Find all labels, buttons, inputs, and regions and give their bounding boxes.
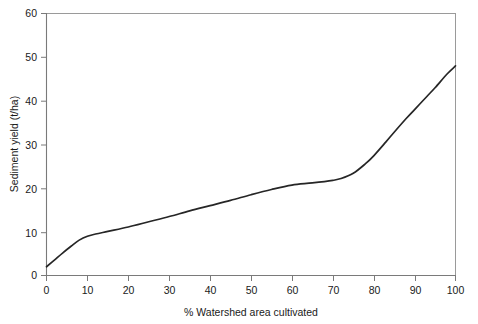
y-tick-label-40: 40 — [25, 95, 37, 107]
x-tick-label-60: 60 — [287, 284, 299, 296]
y-tick-label-60: 60 — [25, 7, 37, 19]
x-tick-label-40: 40 — [205, 284, 217, 296]
y-tick-labels: 60 50 40 30 20 10 0 — [25, 7, 37, 281]
y-tick-label-50: 50 — [25, 51, 37, 63]
sediment-yield-line-chart: 60 50 40 30 20 10 0 0 10 20 30 40 50 60 … — [0, 0, 478, 324]
x-tick-label-70: 70 — [328, 284, 340, 296]
y-axis-ticks — [41, 14, 46, 276]
y-axis-title: Sediment yield (t/ha) — [8, 96, 20, 192]
y-tick-label-10: 10 — [25, 227, 37, 239]
plot-area-background — [46, 13, 456, 276]
y-tick-label-20: 20 — [25, 183, 37, 195]
x-axis-ticks — [47, 276, 456, 281]
x-tick-label-80: 80 — [369, 284, 381, 296]
x-tick-labels: 0 10 20 30 40 50 60 70 80 90 100 — [44, 284, 465, 296]
x-tick-label-20: 20 — [123, 284, 135, 296]
x-tick-label-30: 30 — [164, 284, 176, 296]
x-tick-label-100: 100 — [447, 284, 465, 296]
x-tick-label-50: 50 — [246, 284, 258, 296]
x-axis-title: % Watershed area cultivated — [184, 306, 318, 318]
chart-figure: 60 50 40 30 20 10 0 0 10 20 30 40 50 60 … — [0, 0, 478, 324]
x-tick-label-0: 0 — [44, 284, 50, 296]
x-tick-label-90: 90 — [410, 284, 422, 296]
x-tick-label-10: 10 — [82, 284, 94, 296]
y-tick-label-30: 30 — [25, 139, 37, 151]
y-tick-label-0: 0 — [31, 269, 37, 281]
